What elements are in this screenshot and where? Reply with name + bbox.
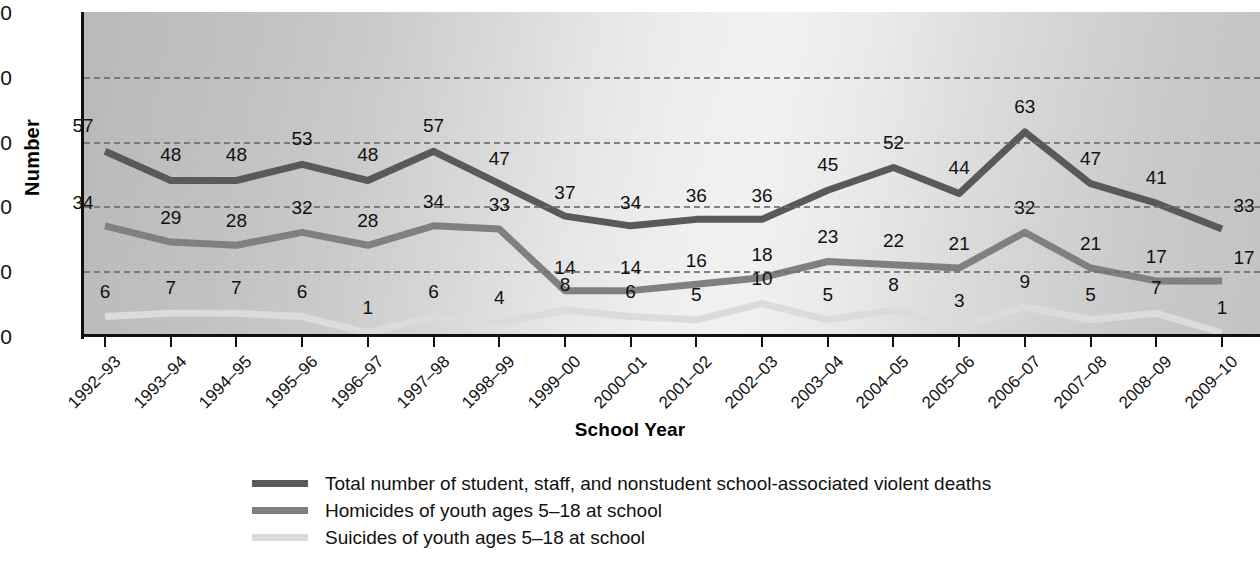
data-label-s1-i17: 17 <box>1233 247 1254 266</box>
legend-item-0[interactable]: Total number of student, staff, and nons… <box>252 470 1152 497</box>
x-tick-label-0: 1992–93 <box>54 352 125 423</box>
x-tick-8 <box>630 337 632 347</box>
x-tick-label-11: 2003–04 <box>777 352 848 423</box>
data-label-s1-i1: 29 <box>160 208 181 227</box>
data-label-s0-i4: 48 <box>357 145 378 164</box>
x-tick-9 <box>695 337 697 347</box>
x-tick-5 <box>433 337 435 347</box>
legend-item-2[interactable]: Suicides of youth ages 5–18 at school <box>252 524 1152 551</box>
data-label-s1-i10: 18 <box>751 244 772 263</box>
data-label-s0-i16: 41 <box>1146 168 1167 187</box>
data-label-s2-i3: 6 <box>297 281 308 300</box>
series-lines <box>84 12 1260 336</box>
legend-swatch-0 <box>252 480 308 487</box>
x-tick-label-15: 2007–08 <box>1040 352 1111 423</box>
data-label-s2-i11: 5 <box>822 284 833 303</box>
legend-label-1: Homicides of youth ages 5–18 at school <box>325 500 662 522</box>
x-tick-label-3: 1995–96 <box>252 352 323 423</box>
x-tick-label-1: 1993–94 <box>120 352 191 423</box>
data-label-s2-i17: 1 <box>1217 297 1228 316</box>
data-label-s2-i0: 6 <box>100 281 111 300</box>
data-label-s1-i13: 21 <box>949 233 970 252</box>
chart-legend: Total number of student, staff, and nons… <box>252 470 1152 551</box>
y-tick-label-20: 20 <box>0 261 12 282</box>
data-label-s0-i12: 52 <box>883 132 904 151</box>
data-label-s1-i6: 33 <box>489 195 510 214</box>
data-label-s2-i9: 5 <box>691 284 702 303</box>
data-label-s0-i10: 36 <box>751 186 772 205</box>
x-tick-label-2: 1994–95 <box>186 352 257 423</box>
legend-swatch-1 <box>252 507 308 514</box>
x-axis-line <box>81 334 1260 337</box>
data-label-s0-i0: 57 <box>72 116 93 135</box>
chart-page: 020406080100 Number 1992–931993–941994–9… <box>0 0 1260 570</box>
x-tick-label-17: 2009–10 <box>1171 352 1242 423</box>
gridline-80 <box>84 77 1260 79</box>
data-label-s1-i15: 21 <box>1080 233 1101 252</box>
data-label-s2-i12: 8 <box>888 275 899 294</box>
data-label-s1-i2: 28 <box>226 211 247 230</box>
data-label-s0-i11: 45 <box>817 155 838 174</box>
plot-area <box>84 12 1260 336</box>
data-label-s1-i11: 23 <box>817 227 838 246</box>
x-tick-label-10: 2002–03 <box>711 352 782 423</box>
x-tick-label-7: 1999–00 <box>514 352 585 423</box>
y-tick-label-60: 60 <box>0 131 12 152</box>
data-label-s2-i16: 7 <box>1151 278 1162 297</box>
legend-swatch-2 <box>252 534 308 541</box>
x-tick-11 <box>827 337 829 347</box>
data-label-s2-i10: 10 <box>751 268 772 287</box>
x-tick-14 <box>1024 337 1026 347</box>
data-label-s2-i8: 6 <box>625 281 636 300</box>
x-tick-7 <box>564 337 566 347</box>
x-tick-15 <box>1090 337 1092 347</box>
y-tick-label-80: 80 <box>0 66 12 87</box>
data-label-s0-i1: 48 <box>160 145 181 164</box>
x-tick-label-16: 2008–09 <box>1106 352 1177 423</box>
data-label-s1-i4: 28 <box>357 211 378 230</box>
x-tick-label-4: 1996–97 <box>317 352 388 423</box>
series-line-1 <box>105 226 1222 291</box>
x-tick-3 <box>301 337 303 347</box>
data-label-s2-i2: 7 <box>231 278 242 297</box>
y-tick-label-100: 100 <box>0 2 12 23</box>
x-tick-16 <box>1155 337 1157 347</box>
series-line-0 <box>105 132 1222 229</box>
data-label-s0-i15: 47 <box>1080 148 1101 167</box>
data-label-s2-i1: 7 <box>165 278 176 297</box>
x-axis-title: School Year <box>0 419 1260 441</box>
x-tick-0 <box>104 337 106 347</box>
data-label-s1-i3: 32 <box>292 198 313 217</box>
data-label-s0-i6: 47 <box>489 148 510 167</box>
legend-item-1[interactable]: Homicides of youth ages 5–18 at school <box>252 497 1152 524</box>
x-tick-label-8: 2000–01 <box>580 352 651 423</box>
x-tick-12 <box>892 337 894 347</box>
data-label-s2-i5: 6 <box>428 281 439 300</box>
x-tick-6 <box>498 337 500 347</box>
x-tick-label-14: 2006–07 <box>974 352 1045 423</box>
data-label-s1-i8: 14 <box>620 257 641 276</box>
gridline-20 <box>84 271 1260 273</box>
data-label-s1-i9: 16 <box>686 251 707 270</box>
gridline-40 <box>84 206 1260 208</box>
x-tick-label-12: 2004–05 <box>843 352 914 423</box>
data-label-s1-i12: 22 <box>883 230 904 249</box>
data-label-s1-i16: 17 <box>1146 246 1167 265</box>
data-label-s0-i7: 37 <box>554 183 575 202</box>
y-tick-label-40: 40 <box>0 196 12 217</box>
data-label-s2-i6: 4 <box>494 288 505 307</box>
x-tick-13 <box>958 337 960 347</box>
x-tick-label-13: 2005–06 <box>909 352 980 423</box>
x-tick-17 <box>1221 337 1223 347</box>
data-label-s0-i17: 33 <box>1233 196 1254 215</box>
x-tick-1 <box>170 337 172 347</box>
data-label-s0-i14: 63 <box>1014 96 1035 115</box>
data-label-s0-i3: 53 <box>292 129 313 148</box>
data-label-s1-i0: 34 <box>72 192 93 211</box>
y-axis-title: Number <box>21 98 44 218</box>
y-axis-line <box>81 12 84 339</box>
data-label-s1-i5: 34 <box>423 191 444 210</box>
data-label-s2-i13: 3 <box>954 291 965 310</box>
x-tick-label-9: 2001–02 <box>646 352 717 423</box>
y-tick-label-0: 0 <box>0 326 12 347</box>
